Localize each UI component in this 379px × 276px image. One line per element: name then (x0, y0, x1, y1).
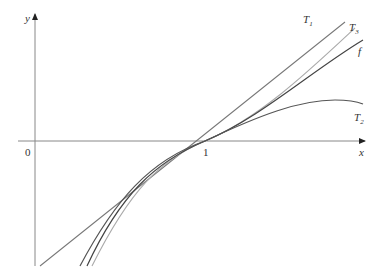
curve-T3 (92, 28, 355, 266)
curve-f (87, 40, 363, 266)
x-axis-label: x (358, 146, 364, 158)
label-f: f (358, 45, 363, 57)
y-axis-label: y (24, 12, 30, 24)
curve-T2 (80, 100, 363, 266)
origin-label: 0 (25, 146, 31, 158)
label-T1: T1 (303, 13, 313, 28)
taylor-polynomials-plot: y x 0 1 T1 T3 f T2 (0, 0, 379, 276)
label-T3: T3 (349, 21, 359, 36)
tick-label-1: 1 (203, 146, 209, 158)
label-T2: T2 (354, 111, 364, 126)
curve-T1 (40, 22, 345, 266)
